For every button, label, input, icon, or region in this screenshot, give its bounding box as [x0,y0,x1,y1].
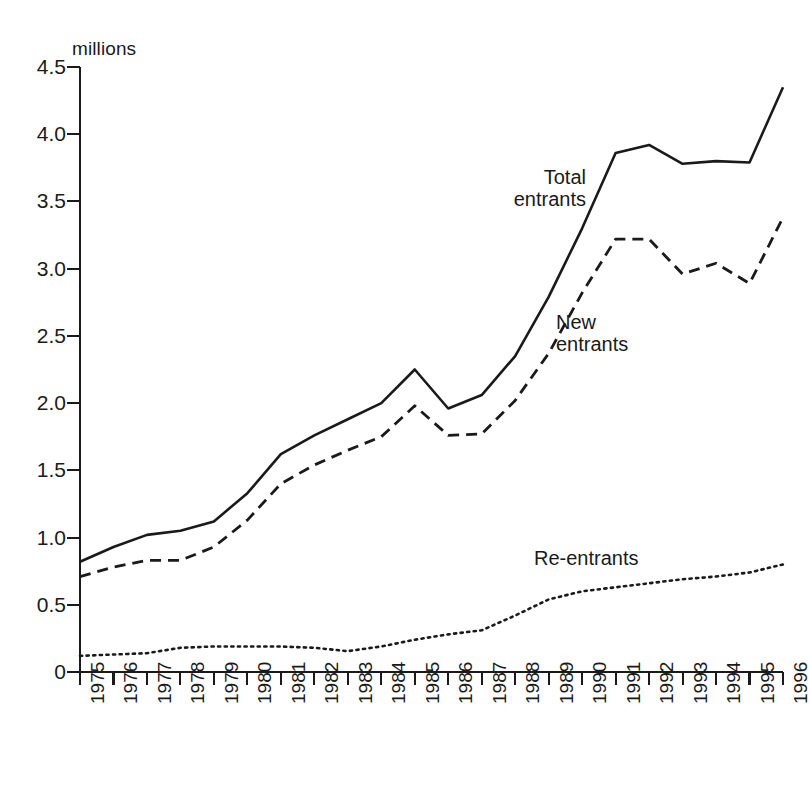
chart-series [80,87,783,656]
series-label-re-entrants: Re-entrants [534,547,704,569]
series-line-new-entrants [80,218,783,577]
series-label-total-entrants: Total entrants [476,166,586,211]
series-label-new-entrants: New entrants [556,311,676,356]
plot-area [0,0,810,791]
series-line-re-entrants [80,564,783,655]
series-line-total-entrants [80,87,783,562]
chart-figure: millions 00.51.01.52.02.53.03.54.04.5 19… [0,0,810,791]
